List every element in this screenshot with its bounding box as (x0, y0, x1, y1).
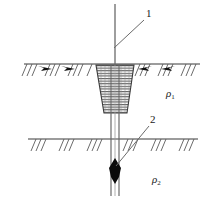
callout-2-leader (116, 126, 149, 166)
rho-subscript-upper: 1 (171, 93, 175, 101)
layer-interface-group (28, 139, 198, 151)
callout-1-leader (114, 20, 144, 48)
arrowhead-left-2 (61, 66, 75, 71)
callout-2-label: 2 (150, 114, 156, 125)
figure-root: 1 2 ρ1 ρ2 (0, 0, 212, 207)
layer-interface-hatching (31, 139, 194, 151)
arrowhead-left-1 (38, 66, 52, 71)
diagram-canvas (0, 0, 212, 207)
callout-1-label: 1 (146, 8, 152, 19)
rho-subscript-lower: 2 (157, 179, 161, 187)
arrowhead-right-1 (138, 66, 152, 71)
resistivity-label-upper: ρ1 (166, 88, 175, 99)
arrowhead-right-2 (161, 66, 175, 71)
resistivity-label-lower: ρ2 (152, 174, 161, 185)
